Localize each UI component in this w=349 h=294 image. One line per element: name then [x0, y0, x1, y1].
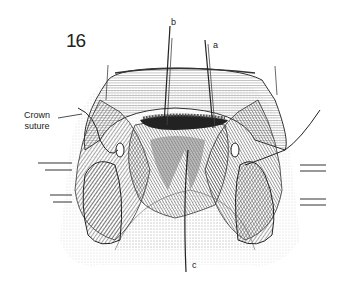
- label-crown-suture: Crown suture: [24, 110, 50, 132]
- label-a: a: [213, 40, 218, 51]
- figure-number: 16: [66, 30, 85, 52]
- label-b: b: [171, 17, 176, 28]
- label-crown-line1: Crown: [24, 110, 50, 121]
- label-crown-line2: suture: [24, 121, 50, 132]
- label-c: c: [192, 260, 197, 271]
- surgical-illustration: 16 b a c Crown suture: [0, 0, 349, 294]
- illustration-drawing: [0, 0, 349, 294]
